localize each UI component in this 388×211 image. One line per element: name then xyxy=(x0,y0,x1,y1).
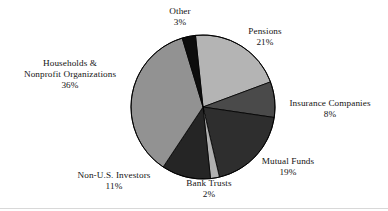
pie-label-other: Other 3% xyxy=(144,6,216,28)
pie-label-pensions: Pensions 21% xyxy=(226,26,304,48)
pie-label-mutual-funds-name: Mutual Funds xyxy=(248,156,328,167)
pie-label-pensions-name: Pensions xyxy=(226,26,304,37)
pie-label-insurance-companies-name: Insurance Companies xyxy=(272,98,388,109)
pie-label-households-nonprofit-name-line1: Households & xyxy=(6,58,134,69)
pie-label-other-value: 3% xyxy=(144,17,216,28)
pie-label-non-us-investors-value: 11% xyxy=(62,181,166,192)
pie-label-bank-trusts-value: 2% xyxy=(174,189,244,200)
pie-label-non-us-investors: Non-U.S. Investors 11% xyxy=(62,170,166,192)
pie-label-households-nonprofit-value: 36% xyxy=(6,80,134,91)
pie-label-bank-trusts-name: Bank Trusts xyxy=(174,178,244,189)
pie-label-mutual-funds: Mutual Funds 19% xyxy=(248,156,328,178)
pie-label-insurance-companies-value: 8% xyxy=(272,109,388,120)
pie-label-households-nonprofit: Households & Nonprofit Organizations 36% xyxy=(6,58,134,92)
pie-label-insurance-companies: Insurance Companies 8% xyxy=(272,98,388,120)
pie-label-bank-trusts: Bank Trusts 2% xyxy=(174,178,244,200)
pie-label-households-nonprofit-name-line2: Nonprofit Organizations xyxy=(6,69,134,80)
pie-label-non-us-investors-name: Non-U.S. Investors xyxy=(62,170,166,181)
pie-label-other-name: Other xyxy=(144,6,216,17)
pie-label-mutual-funds-value: 19% xyxy=(248,167,328,178)
pie-label-pensions-value: 21% xyxy=(226,37,304,48)
bottom-divider xyxy=(0,208,388,209)
pie-chart-figure: Other 3% Pensions 21% Insurance Companie… xyxy=(0,0,388,211)
